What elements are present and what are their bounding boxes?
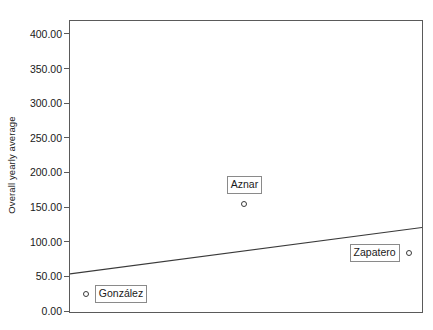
y-axis-tick-label: 200.00 bbox=[30, 165, 62, 179]
data-point-marker bbox=[83, 291, 89, 297]
y-axis-tick-label: 150.00 bbox=[30, 200, 62, 214]
y-axis-tick-label: 100.00 bbox=[30, 235, 62, 249]
y-axis: 400.00350.00300.00250.00200.00150.00100.… bbox=[0, 0, 72, 330]
scatter-chart: Overall yearly average 400.00350.00300.0… bbox=[0, 0, 433, 330]
y-axis-tick-label: 250.00 bbox=[30, 131, 62, 145]
data-point-marker bbox=[406, 250, 412, 256]
plot-area: GonzálezAznarZapatero bbox=[69, 20, 423, 313]
data-point-label: Zapatero bbox=[350, 244, 400, 262]
plot-graphics bbox=[70, 21, 422, 312]
data-point-label: Aznar bbox=[227, 176, 262, 194]
y-axis-tick-label: 400.00 bbox=[30, 27, 62, 41]
y-axis-tick-label: 50.00 bbox=[36, 269, 62, 283]
y-axis-tick-label: 300.00 bbox=[30, 96, 62, 110]
y-axis-tick-label: 350.00 bbox=[30, 62, 62, 76]
y-axis-tick-label: 0.00 bbox=[42, 304, 62, 318]
data-point-label: González bbox=[95, 285, 147, 303]
